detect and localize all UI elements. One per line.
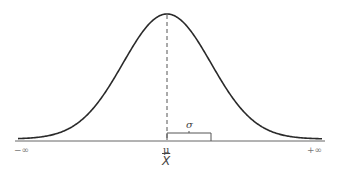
negative-infinity-label: −∞: [14, 145, 29, 155]
sigma-bracket: [167, 131, 211, 141]
sigma-label: σ: [186, 120, 193, 130]
x-bar-label: X: [162, 156, 170, 166]
normal-curve: [18, 14, 322, 139]
positive-infinity-label: +∞: [307, 145, 322, 155]
